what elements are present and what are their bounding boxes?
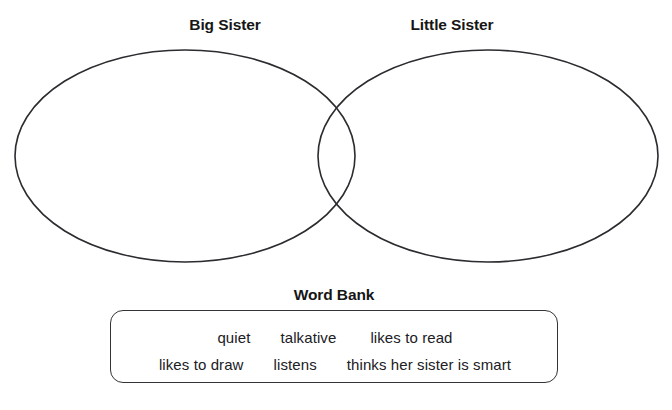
venn-diagram bbox=[0, 0, 672, 290]
word-bank-item[interactable]: listens bbox=[274, 356, 317, 373]
worksheet-canvas: Big Sister Little Sister Word Bank quiet… bbox=[0, 0, 672, 410]
word-bank-item[interactable]: thinks her sister is smart bbox=[347, 356, 511, 373]
word-bank-item[interactable]: talkative bbox=[280, 329, 336, 346]
word-bank-box: quiet talkative likes to read likes to d… bbox=[110, 310, 558, 383]
word-bank-title: Word Bank bbox=[110, 286, 558, 304]
venn-circle-left[interactable] bbox=[15, 50, 355, 262]
word-bank-item[interactable]: likes to draw bbox=[159, 356, 244, 373]
venn-circle-right[interactable] bbox=[318, 50, 658, 262]
word-bank-row: quiet talkative likes to read bbox=[111, 329, 559, 346]
word-bank-item[interactable]: likes to read bbox=[370, 329, 452, 346]
word-bank-row: likes to draw listens thinks her sister … bbox=[111, 356, 559, 373]
word-bank-item[interactable]: quiet bbox=[217, 329, 250, 346]
